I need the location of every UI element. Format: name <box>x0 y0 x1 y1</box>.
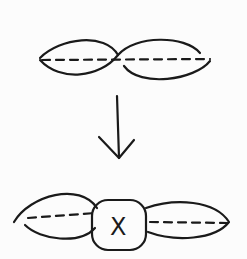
bottom-right-dashed-axis <box>150 222 228 223</box>
bottom-left-dashed-axis <box>28 213 95 218</box>
top-dashed-axis <box>42 59 210 60</box>
sketch-canvas: X <box>0 0 247 259</box>
center-box-label: X <box>110 213 126 241</box>
down-arrow <box>99 96 134 158</box>
bottom-right-lens <box>146 202 229 238</box>
top-lens-pair <box>40 40 210 80</box>
bottom-lens-pair: X <box>14 194 229 250</box>
top-left-lens <box>40 40 118 74</box>
